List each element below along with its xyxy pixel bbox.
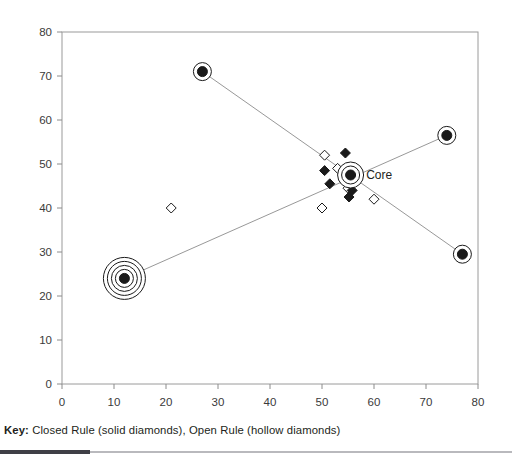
y-tick-label: 30 xyxy=(39,246,52,258)
core-annotation-label: Core xyxy=(366,168,392,182)
footer-rule-light-segment xyxy=(90,451,512,453)
scatter-plot: 01020304050607080 01020304050607080 Core xyxy=(0,0,512,420)
ringed-node xyxy=(103,257,145,299)
y-tick-label: 40 xyxy=(39,202,52,214)
x-tick-label: 70 xyxy=(420,396,433,408)
plot-frame xyxy=(62,32,478,384)
x-tick-label: 30 xyxy=(212,396,225,408)
ringed-node xyxy=(338,162,364,188)
y-tick-label: 60 xyxy=(39,114,52,126)
footer-rule xyxy=(0,450,512,454)
chart-key-caption: Key: Closed Rule (solid diamonds), Open … xyxy=(4,424,340,436)
figure-container: 01020304050607080 01020304050607080 Core… xyxy=(0,0,512,459)
x-tick-label: 10 xyxy=(108,396,121,408)
y-tick-label: 0 xyxy=(46,378,52,390)
x-tick-label: 20 xyxy=(160,396,173,408)
x-tick-label: 40 xyxy=(264,396,277,408)
key-text: Closed Rule (solid diamonds), Open Rule … xyxy=(29,424,341,436)
ringed-node xyxy=(193,63,211,81)
y-tick-label: 50 xyxy=(39,158,52,170)
x-tick-label: 50 xyxy=(316,396,329,408)
node-center-dot xyxy=(197,67,207,77)
y-tick-label: 70 xyxy=(39,70,52,82)
node-center-dot xyxy=(346,170,356,180)
node-center-dot xyxy=(442,130,452,140)
node-center-dot xyxy=(119,273,129,283)
ringed-node xyxy=(438,126,456,144)
x-tick-label: 60 xyxy=(368,396,381,408)
x-axis: 01020304050607080 xyxy=(59,384,485,408)
y-tick-label: 20 xyxy=(39,290,52,302)
ringed-node xyxy=(453,245,471,263)
key-label: Key: xyxy=(4,424,29,436)
y-tick-label: 10 xyxy=(39,334,52,346)
node-center-dot xyxy=(457,249,467,259)
y-tick-label: 80 xyxy=(39,26,52,38)
x-tick-label: 0 xyxy=(59,396,65,408)
plot-area-border xyxy=(62,32,478,384)
y-axis: 01020304050607080 xyxy=(39,26,62,390)
annotation-layer: Core xyxy=(366,168,392,182)
footer-rule-dark-segment xyxy=(0,450,90,454)
x-tick-label: 80 xyxy=(472,396,485,408)
